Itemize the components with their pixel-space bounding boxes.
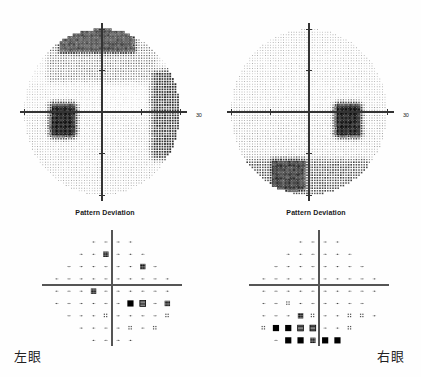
axis-degree-label-left: 30 — [196, 112, 202, 118]
grayscale-svg-right — [225, 16, 400, 206]
report-sheet: 30 Pattern Deviation 左眼 30 Pattern Devia… — [0, 0, 421, 377]
pattern-deviation-plot-left — [40, 228, 185, 348]
grayscale-map-left-eye — [18, 16, 193, 206]
left-eye-panel: 30 Pattern Deviation 左眼 — [0, 0, 210, 377]
pattern-deviation-svg-left — [40, 228, 185, 348]
grayscale-svg-left — [18, 16, 193, 206]
pattern-deviation-title-right: Pattern Deviation — [211, 209, 421, 216]
right-eye-panel: 30 Pattern Deviation 右眼 — [211, 0, 421, 377]
pattern-deviation-svg-right — [247, 228, 392, 348]
right-eye-caption: 右眼 — [377, 346, 405, 365]
left-eye-caption: 左眼 — [14, 346, 42, 365]
pattern-deviation-title-left: Pattern Deviation — [0, 209, 210, 216]
grayscale-map-right-eye — [225, 16, 400, 206]
pattern-deviation-plot-right — [247, 228, 392, 348]
axis-degree-label-right: 30 — [403, 112, 409, 118]
